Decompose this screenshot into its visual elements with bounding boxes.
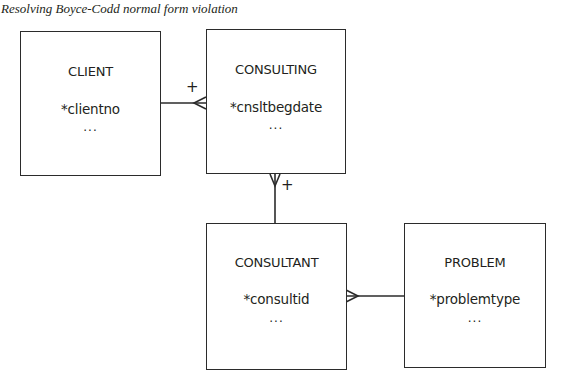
diagram-title: Resolving Boyce-Codd normal form violati… <box>1 1 238 17</box>
entity-name: PROBLEM <box>405 255 545 270</box>
entity-name: CONSULTING <box>207 62 345 77</box>
entity-more-attributes: ... <box>207 118 345 132</box>
entity-name: CONSULTANT <box>207 255 346 270</box>
entity-more-attributes: ... <box>21 120 160 134</box>
one-marker-consultant-consulting: + <box>281 178 294 193</box>
entity-key-attribute: *cnsltbegdate <box>207 99 345 115</box>
entity-key-attribute: *clientno <box>21 101 160 117</box>
entity-client[interactable]: CLIENT *clientno ... <box>20 31 161 176</box>
entity-more-attributes: ... <box>207 311 346 325</box>
entity-key-attribute: *consultid <box>207 291 346 307</box>
crows-foot-icon <box>194 97 206 109</box>
consulting-consultant-relationship <box>270 173 280 223</box>
entity-consultant[interactable]: CONSULTANT *consultid ... <box>206 223 347 370</box>
client-consulting-relationship <box>160 97 206 109</box>
crows-foot-icon <box>270 174 280 186</box>
crows-foot-icon <box>346 290 358 302</box>
one-marker-client-consulting: + <box>186 80 199 95</box>
entity-key-attribute: *problemtype <box>405 291 545 307</box>
entity-problem[interactable]: PROBLEM *problemtype ... <box>404 223 546 368</box>
entity-name: CLIENT <box>21 64 160 79</box>
entity-consulting[interactable]: CONSULTING *cnsltbegdate ... <box>206 29 346 174</box>
consultant-problem-relationship <box>346 290 404 302</box>
entity-more-attributes: ... <box>405 311 545 325</box>
